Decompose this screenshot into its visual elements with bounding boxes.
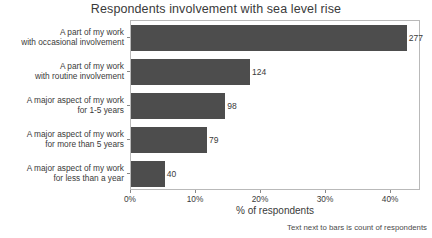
bar[interactable] (131, 127, 207, 153)
y-axis-label: A part of my work with occasional involv… (0, 20, 124, 54)
y-axis-label-line2: for less than a year (53, 173, 124, 183)
y-axis-label-line1: A major aspect of my work (27, 95, 124, 105)
bar-row: 40 (131, 157, 419, 191)
bar[interactable] (131, 59, 250, 85)
y-axis-label-line1: A major aspect of my work (27, 129, 124, 139)
bar-chart-figure: Respondents involvement with sea level r… (0, 0, 432, 238)
y-axis-label-line1: A part of my work (60, 27, 124, 37)
bar[interactable] (131, 25, 407, 51)
bar-value-label: 40 (165, 169, 176, 179)
y-axis-label-line2: with routine involvement (35, 71, 124, 81)
y-axis-label-line1: A major aspect of my work (27, 163, 124, 173)
x-axis-tick (130, 190, 131, 193)
y-axis-label: A major aspect of my work for more than … (0, 122, 124, 156)
y-axis-label-line1: A part of my work (60, 61, 124, 71)
x-axis-ticklabel: 40% (382, 194, 399, 204)
y-axis-category-labels: A part of my work with occasional involv… (0, 20, 127, 190)
x-axis-ticklabel: 30% (317, 194, 334, 204)
bar-row: 124 (131, 55, 419, 89)
y-axis-label-line2: for 1-5 years (77, 105, 124, 115)
y-axis-label: A major aspect of my work for less than … (0, 156, 124, 190)
bars-layer: 277 124 98 79 40 (131, 21, 419, 189)
bar-value-label: 277 (407, 33, 423, 43)
y-axis-label-line2: with occasional involvement (21, 37, 124, 47)
bar[interactable] (131, 93, 225, 119)
x-axis-tick (325, 190, 326, 193)
x-axis-title: % of respondents (130, 205, 420, 216)
x-axis-ticklabel: 0% (124, 194, 136, 204)
x-axis-tick (260, 190, 261, 193)
plot-area: 277 124 98 79 40 (130, 20, 420, 190)
x-axis-ticklabel: 20% (252, 194, 269, 204)
chart-footnote: Text next to bars is count of respondent… (287, 223, 427, 232)
x-axis-ticklabel: 10% (187, 194, 204, 204)
chart-title: Respondents involvement with sea level r… (0, 2, 432, 16)
x-axis-tick (390, 190, 391, 193)
y-axis-label: A major aspect of my work for 1-5 years (0, 88, 124, 122)
bar-value-label: 124 (250, 67, 266, 77)
bar-row: 277 (131, 21, 419, 55)
bar-row: 79 (131, 123, 419, 157)
bar-value-label: 79 (207, 135, 218, 145)
bar[interactable] (131, 161, 165, 187)
bar-row: 98 (131, 89, 419, 123)
y-axis-label: A part of my work with routine involveme… (0, 54, 124, 88)
x-axis-tick (195, 190, 196, 193)
y-axis-label-line2: for more than 5 years (45, 139, 124, 149)
bar-value-label: 98 (225, 101, 236, 111)
